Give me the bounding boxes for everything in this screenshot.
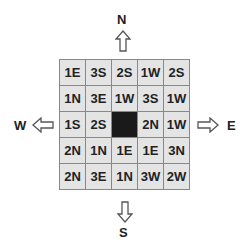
grid-cell: 1E (112, 138, 137, 163)
grid-cell: 1W (112, 86, 137, 111)
grid-cell: 1S (60, 112, 85, 137)
grid-cell: 1N (112, 164, 137, 189)
grid-cell: 2N (60, 138, 85, 163)
east-arrow-icon (197, 117, 219, 133)
grid-cell: 1E (60, 60, 85, 85)
grid-cell: 3E (86, 86, 111, 111)
grid-cell: 1N (60, 86, 85, 111)
grid-cell: 1W (164, 86, 189, 111)
grid-cell: 3S (138, 86, 163, 111)
dark-center-cell (112, 112, 137, 137)
grid-cell: 1W (164, 112, 189, 137)
grid-cell: 3E (86, 164, 111, 189)
grid-cell: 2N (60, 164, 85, 189)
grid-cell: 2S (86, 112, 111, 137)
grid-cell: 2W (164, 164, 189, 189)
grid-cell: 2S (112, 60, 137, 85)
grid-cell: 3N (164, 138, 189, 163)
grid-cell: 2S (164, 60, 189, 85)
grid-cell: 1E (138, 138, 163, 163)
grid-cell: 3W (138, 164, 163, 189)
grid-cell: 1N (86, 138, 111, 163)
grid-cell: 1W (138, 60, 163, 85)
north-label: N (117, 12, 126, 27)
west-arrow-icon (32, 117, 54, 133)
grid-cell: 2N (138, 112, 163, 137)
south-arrow-icon (117, 201, 133, 223)
south-label: S (119, 225, 128, 240)
direction-grid: 1E 3S 2S 1W 2S 1N 3E 1W 3S 1W 1S 2S 2N 1… (59, 59, 190, 190)
grid-cell: 3S (86, 60, 111, 85)
west-label: W (14, 118, 26, 133)
north-arrow-icon (115, 30, 131, 52)
east-label: E (227, 118, 236, 133)
